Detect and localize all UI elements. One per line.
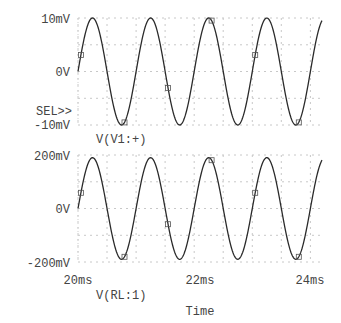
legend-v-rl[interactable]: V(RL:1) <box>96 289 146 303</box>
x-tick-1: 22ms <box>186 274 215 288</box>
y-tick-top-zero: 0V <box>56 66 71 80</box>
x-axis-label: Time <box>186 305 215 319</box>
plot-v1[interactable]: 10mV 0V SEL>> -10mV V(V1:+) <box>34 13 322 147</box>
y-tick-bottom-max: 200mV <box>34 150 71 164</box>
sel-marker[interactable]: SEL>> <box>36 105 72 119</box>
x-tick-2: 24ms <box>296 274 325 288</box>
y-tick-top-max: 10mV <box>41 13 71 27</box>
pspice-plot: 10mV 0V SEL>> -10mV V(V1:+) 200mV 0V -20… <box>0 0 341 323</box>
y-tick-top-min: -10mV <box>34 119 71 133</box>
plot-rl[interactable]: 200mV 0V -200mV 20ms 22ms 24ms V(RL:1) T… <box>27 150 325 319</box>
y-tick-bottom-min: -200mV <box>27 257 71 271</box>
legend-v-v1[interactable]: V(V1:+) <box>96 133 146 147</box>
y-tick-bottom-zero: 0V <box>56 203 71 217</box>
x-tick-0: 20ms <box>64 274 93 288</box>
